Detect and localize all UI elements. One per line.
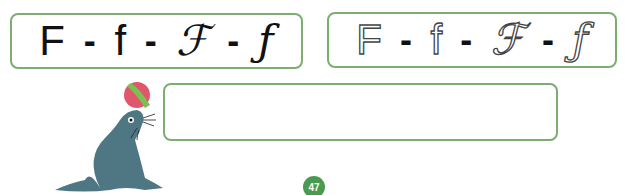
separator: - (400, 22, 412, 58)
letter-upper-cursive: ℱ (176, 20, 209, 62)
trace-lower-cursive[interactable]: ƒ (572, 19, 588, 61)
trace-upper-print[interactable]: F (356, 19, 382, 61)
letter-lower-cursive: ƒ (258, 20, 274, 62)
separator: - (227, 23, 239, 59)
separator: - (145, 23, 157, 59)
model-letters-box: F - f - ℱ - ƒ (10, 13, 303, 69)
writing-answer-box[interactable] (163, 83, 558, 141)
seal-balancing-ball-icon (45, 78, 165, 195)
page-number-badge: 47 (303, 176, 325, 195)
trace-upper-cursive[interactable]: ℱ (491, 19, 524, 61)
trace-lower-print[interactable]: f (430, 19, 442, 61)
tracing-letters-box[interactable]: F - f - ℱ - ƒ (327, 12, 617, 68)
letter-upper-print: F (39, 20, 65, 62)
separator: - (84, 23, 96, 59)
separator: - (542, 22, 554, 58)
letter-lower-print: f (114, 20, 126, 62)
separator: - (460, 22, 472, 58)
